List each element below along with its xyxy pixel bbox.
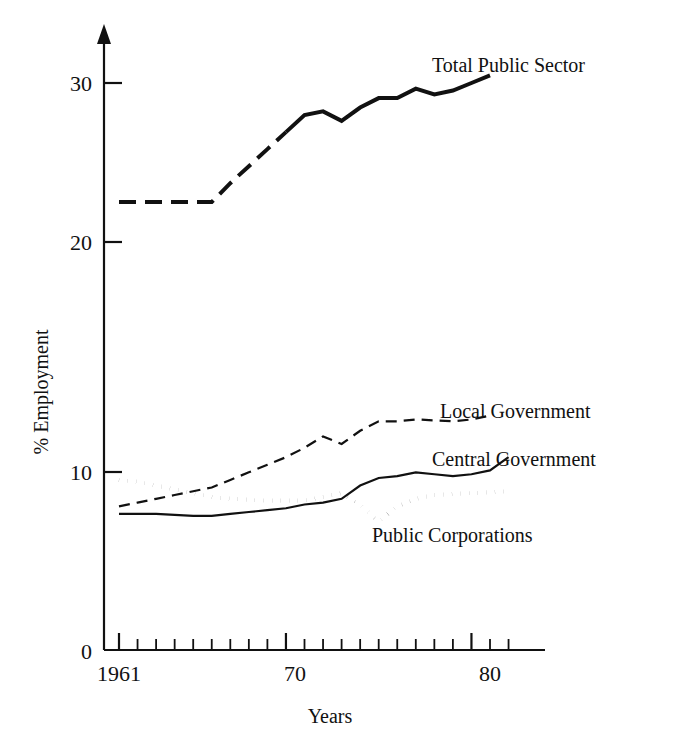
y-tick-labels: 30 20 10 0	[70, 71, 92, 664]
y-axis	[97, 24, 111, 650]
y-tick-label-20: 20	[70, 230, 92, 255]
line-chart-figure: 30 20 10 0 1961 70 80 Years % Employment…	[0, 0, 683, 754]
chart-container: 30 20 10 0 1961 70 80 Years % Employment…	[0, 0, 683, 754]
series-total-public-sector-dashed-segment	[119, 132, 286, 202]
x-tick-label-1961: 1961	[97, 661, 141, 686]
series-label-local-government: Local Government	[440, 400, 591, 422]
series-total-public-sector-solid-segment	[286, 75, 490, 132]
series-label-public-corporations: Public Corporations	[372, 524, 533, 547]
x-tick-labels: 1961 70 80	[97, 661, 501, 686]
series-annotations: Total Public Sector Local Government Cen…	[372, 54, 596, 547]
y-axis-arrow-icon	[97, 24, 111, 44]
x-tick-label-70: 70	[284, 661, 306, 686]
y-tick-label-0: 0	[81, 639, 92, 664]
series-label-central-government: Central Government	[432, 448, 596, 470]
y-tick-label-10: 10	[70, 460, 92, 485]
y-axis-title: % Employment	[30, 329, 53, 454]
x-tick-label-80: 80	[479, 661, 501, 686]
series-label-total-public-sector: Total Public Sector	[432, 54, 585, 76]
x-tick-marks	[119, 633, 509, 650]
x-axis-title: Years	[308, 705, 353, 727]
y-tick-marks	[104, 83, 122, 472]
y-tick-label-30: 30	[70, 71, 92, 96]
